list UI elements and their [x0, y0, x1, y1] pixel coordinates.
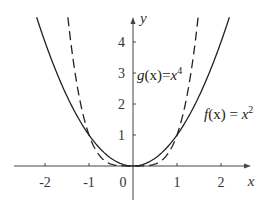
- y-tick-label: 3: [118, 66, 125, 81]
- y-tick-label: 2: [118, 97, 125, 112]
- f-function-label: f(x) = x2: [204, 104, 253, 123]
- y-tick-label: 4: [118, 35, 125, 50]
- x-tick-label: 2: [218, 175, 225, 190]
- x-axis-arrow-icon: [244, 164, 251, 169]
- y-axis: 4 3 2 1 y: [118, 10, 147, 200]
- x-axis: -2 -1 0 1 2 x: [14, 163, 255, 190]
- x-tick-label: 1: [174, 175, 181, 190]
- x-tick-label: 0: [120, 175, 127, 190]
- x-tick-label: -2: [39, 175, 51, 190]
- y-axis-label: y: [138, 10, 147, 26]
- x-axis-label: x: [247, 173, 255, 189]
- y-tick-label: 1: [118, 128, 125, 143]
- function-plot: -2 -1 0 1 2 x 4 3 2 1 y g(x)=x4 f(x) = x…: [0, 0, 272, 204]
- y-axis-arrow-icon: [131, 17, 136, 24]
- g-function-label: g(x)=x4: [137, 65, 182, 84]
- x-tick-label: -1: [83, 175, 95, 190]
